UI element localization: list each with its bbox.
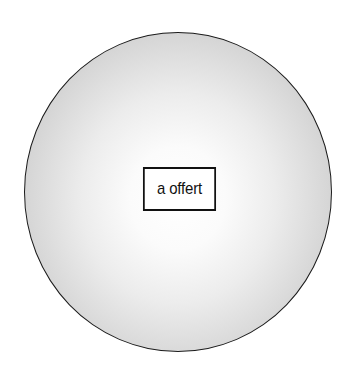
label-text: a offert (157, 179, 202, 199)
label-box: a offert (143, 167, 216, 211)
